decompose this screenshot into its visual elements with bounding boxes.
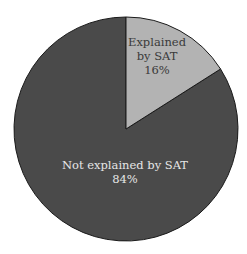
pie-chart: Explained by SAT 16% Not explained by SA… [0, 0, 247, 254]
label-not-explained-line1: Not explained by SAT [62, 158, 188, 172]
label-explained-line1: Explained [128, 35, 187, 49]
label-explained-line2: by SAT [137, 49, 178, 63]
label-not-explained-percent: 84% [112, 172, 138, 186]
label-explained-percent: 16% [144, 63, 170, 77]
